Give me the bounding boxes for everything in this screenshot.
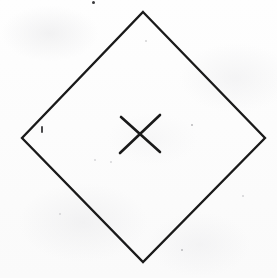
ink-drawing-layer: [0, 0, 277, 278]
scanned-page: [0, 0, 277, 278]
